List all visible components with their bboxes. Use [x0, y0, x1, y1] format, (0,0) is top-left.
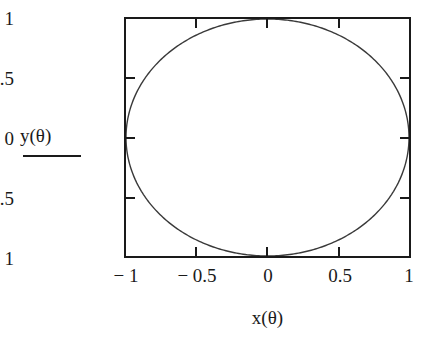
x-tick-top-0.5: [338, 19, 340, 28]
x-tick-label-minus-0.5: − 0.5: [177, 266, 216, 285]
x-tick-top-0: [266, 19, 268, 28]
y-tick-right-0: [400, 137, 409, 139]
y-tick-right-minus-0.5: [400, 197, 409, 199]
y-tick-label-minus-1: − 1: [0, 249, 14, 268]
x-tick-label-1: 1: [404, 266, 414, 285]
x-tick-top-minus-0.5: [195, 19, 197, 28]
plot-inner: [126, 19, 409, 256]
x-tick-0: [266, 247, 268, 256]
y-tick-0.5: [126, 77, 135, 79]
y-tick-0: [126, 137, 135, 139]
y-tick-minus-0.5: [126, 197, 135, 199]
y-tick-label-0: 0: [5, 129, 15, 148]
y-tick-label-1: 1: [5, 9, 15, 28]
x-tick-0.5: [338, 247, 340, 256]
plot-area: [124, 17, 411, 258]
y-axis-label-underline: [23, 155, 81, 157]
x-tick-label-0: 0: [263, 266, 273, 285]
curve-unit-circle: [126, 19, 409, 256]
x-tick-label-minus-1: − 1: [114, 266, 139, 285]
y-tick-label-0.5: 0.5: [0, 69, 14, 88]
x-tick-label-0.5: 0.5: [328, 266, 352, 285]
x-axis-label-wrapper: x(θ): [0, 308, 435, 327]
y-tick-right-0.5: [400, 77, 409, 79]
x-tick-minus-0.5: [195, 247, 197, 256]
y-tick-label-minus-0.5: − 0.5: [0, 189, 14, 208]
y-axis-label: y(θ): [20, 126, 51, 145]
x-axis-label: x(θ): [252, 307, 283, 328]
chart-screenshot: y(θ) 1 0.5 0 − 0.5 − 1: [0, 0, 435, 350]
